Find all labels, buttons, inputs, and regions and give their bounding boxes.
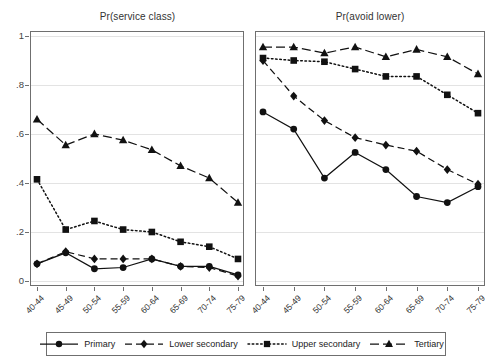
- gridline: [256, 36, 484, 37]
- x-axis-tick-label: 55-59: [100, 293, 133, 326]
- gridline: [31, 134, 243, 135]
- x-axis-tick-mark: [238, 287, 239, 291]
- x-axis-tick-mark: [478, 287, 479, 291]
- legend-label: Primary: [84, 339, 115, 349]
- x-axis-tick-label: 70-74: [424, 293, 457, 326]
- x-axis-tick-mark: [355, 287, 356, 291]
- gridline: [256, 85, 484, 86]
- x-axis-tick-label: 65-69: [394, 293, 427, 326]
- legend-entry-upper-secondary[interactable]: Upper secondary: [247, 338, 370, 350]
- gridline: [31, 183, 243, 184]
- gridline: [31, 232, 243, 233]
- gridline: [256, 232, 484, 233]
- legend-key-square-icon: [247, 338, 287, 350]
- panel-title-avoid-lower: Pr(avoid lower): [255, 11, 485, 22]
- chart-figure: Pr(service class) Pr(avoid lower) 0.2.4.…: [0, 0, 490, 364]
- x-axis-tick-label: 65-69: [158, 293, 191, 326]
- x-axis-tick-label: 70-74: [186, 293, 219, 326]
- legend-entry-lower-secondary[interactable]: Lower secondary: [124, 338, 247, 350]
- x-axis-tick-label: 55-59: [332, 293, 365, 326]
- legend-key-triangle-icon: [369, 338, 409, 350]
- y-axis-tick-label: 1: [2, 30, 24, 41]
- x-axis-tick-label: 60-64: [363, 293, 396, 326]
- legend-label: Upper secondary: [292, 339, 361, 349]
- gridline: [256, 134, 484, 135]
- y-axis-tick-label: 0: [2, 275, 24, 286]
- x-axis-tick-mark: [417, 287, 418, 291]
- plot-area-right: [255, 31, 485, 286]
- gridline: [256, 281, 484, 282]
- y-axis-tick-mark: [25, 281, 29, 282]
- x-axis-tick-label: 75-79: [455, 293, 488, 326]
- x-axis-tick-label: 45-49: [271, 293, 304, 326]
- gridline: [256, 183, 484, 184]
- y-axis-tick-label: .8: [2, 79, 24, 90]
- x-axis-tick-mark: [263, 287, 264, 291]
- x-axis-tick-label: 50-54: [71, 293, 104, 326]
- y-axis-tick-mark: [25, 134, 29, 135]
- y-axis-tick-label: .6: [2, 128, 24, 139]
- y-axis-tick-label: .2: [2, 226, 24, 237]
- x-axis-tick-mark: [94, 287, 95, 291]
- gridline: [31, 36, 243, 37]
- x-axis-tick-mark: [37, 287, 38, 291]
- x-axis-tick-label: 60-64: [129, 293, 162, 326]
- y-axis-tick-mark: [25, 85, 29, 86]
- x-axis-tick-mark: [324, 287, 325, 291]
- y-axis-tick-mark: [25, 36, 29, 37]
- x-axis-tick-mark: [152, 287, 153, 291]
- x-axis-tick-mark: [447, 287, 448, 291]
- chart-legend: PrimaryLower secondaryUpper secondaryTer…: [46, 332, 446, 356]
- x-axis-tick-mark: [294, 287, 295, 291]
- x-axis-tick-mark: [386, 287, 387, 291]
- y-axis-tick-mark: [25, 232, 29, 233]
- legend-key-diamond-icon: [124, 338, 164, 350]
- legend-label: Lower secondary: [169, 339, 238, 349]
- y-axis-tick-label: .4: [2, 177, 24, 188]
- x-axis-tick-label: 45-49: [43, 293, 76, 326]
- x-axis-tick-label: 50-54: [301, 293, 334, 326]
- gridline: [31, 281, 243, 282]
- legend-entry-primary[interactable]: Primary: [39, 338, 124, 350]
- x-axis-tick-mark: [66, 287, 67, 291]
- gridline: [31, 85, 243, 86]
- x-axis-tick-mark: [181, 287, 182, 291]
- plot-area-left: [30, 31, 244, 286]
- panel-title-service-class: Pr(service class): [30, 11, 245, 22]
- x-axis-tick-label: 40-44: [14, 293, 47, 326]
- y-axis-tick-mark: [25, 183, 29, 184]
- legend-key-circle-icon: [39, 338, 79, 350]
- legend-label: Tertiary: [414, 339, 444, 349]
- x-axis-tick-mark: [123, 287, 124, 291]
- x-axis-tick-mark: [209, 287, 210, 291]
- legend-entry-tertiary[interactable]: Tertiary: [369, 338, 453, 350]
